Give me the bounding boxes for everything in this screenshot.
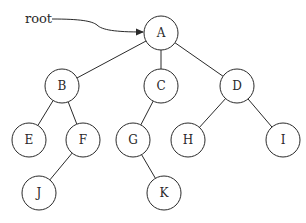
root-label: root xyxy=(25,11,53,26)
tree-nodes: ABCDEFGHIJK xyxy=(12,16,300,210)
root-pointer: root xyxy=(25,11,143,32)
node-label: H xyxy=(183,133,193,147)
edge-d-i xyxy=(248,99,272,127)
node-e: E xyxy=(12,123,46,157)
edge-d-h xyxy=(199,99,225,128)
edge-f-j xyxy=(50,153,72,180)
node-d: D xyxy=(220,69,254,103)
node-label: J xyxy=(35,186,42,200)
node-label: D xyxy=(232,79,242,93)
node-label: K xyxy=(160,186,170,200)
edge-a-d xyxy=(175,43,223,77)
node-label: E xyxy=(25,133,34,147)
edge-c-g xyxy=(141,101,153,125)
node-j: J xyxy=(22,176,56,210)
edge-b-f xyxy=(68,102,77,124)
edge-g-k xyxy=(142,155,156,179)
node-label: A xyxy=(156,26,166,40)
edge-b-e xyxy=(38,101,53,126)
node-label: F xyxy=(79,133,87,147)
node-label: C xyxy=(156,79,165,93)
node-label: B xyxy=(58,79,67,93)
node-g: G xyxy=(116,123,150,157)
node-i: I xyxy=(266,123,300,157)
node-f: F xyxy=(66,123,100,157)
tree-diagram: root ABCDEFGHIJK xyxy=(0,0,306,223)
node-k: K xyxy=(147,176,181,210)
node-label: I xyxy=(281,133,286,147)
tree-edges xyxy=(38,41,272,180)
node-a: A xyxy=(144,16,178,50)
node-b: B xyxy=(45,69,79,103)
node-h: H xyxy=(171,123,205,157)
node-label: G xyxy=(128,133,138,147)
node-c: C xyxy=(144,69,178,103)
root-arrow xyxy=(52,19,143,32)
edge-a-b xyxy=(77,41,146,78)
